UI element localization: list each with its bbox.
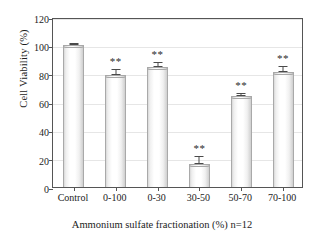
error-bar-cap-top	[279, 66, 288, 67]
bar-group: **	[137, 19, 179, 187]
x-tick-mark	[116, 187, 117, 191]
x-axis-title: Ammonium sulfate fractionation (%) n=12	[0, 219, 324, 230]
bar[interactable]	[189, 164, 210, 187]
bar[interactable]	[147, 67, 168, 187]
significance-marker: **	[235, 80, 247, 91]
x-tick-label: 70-100	[268, 192, 296, 203]
y-tick-label: 0	[44, 184, 49, 195]
x-tick-label: 30-50	[187, 192, 210, 203]
chart-figure: Cell Viability (%) 020406080100120******…	[0, 0, 324, 241]
y-tick-label: 80	[39, 70, 49, 81]
error-bar-cap-top	[237, 93, 246, 94]
y-tick-label: 40	[39, 127, 49, 138]
significance-marker: **	[110, 56, 122, 67]
x-tick-mark	[283, 187, 284, 191]
significance-marker: **	[193, 143, 205, 154]
y-axis-title: Cell Viability (%)	[18, 0, 29, 139]
error-bar-cap-top	[111, 69, 120, 70]
error-bar-cap-top	[195, 156, 204, 157]
significance-marker: **	[277, 53, 289, 64]
x-tick-label: Control	[58, 192, 89, 203]
bar-group: **	[220, 19, 262, 187]
bar-group	[53, 19, 95, 187]
bar-group: **	[179, 19, 221, 187]
x-tick-mark	[158, 187, 159, 191]
bar-group: **	[95, 19, 137, 187]
plot-area: 020406080100120**********	[52, 18, 303, 188]
x-tick-label: 0-30	[147, 192, 165, 203]
bar[interactable]	[231, 96, 252, 187]
bar[interactable]	[105, 75, 126, 187]
y-tick-label: 100	[34, 42, 49, 53]
y-tick-label: 20	[39, 155, 49, 166]
x-tick-label: 50-70	[229, 192, 252, 203]
x-tick-mark	[199, 187, 200, 191]
x-tick-mark	[74, 187, 75, 191]
y-tick-mark	[49, 189, 53, 190]
x-tick-mark	[241, 187, 242, 191]
bar-group: **	[262, 19, 304, 187]
bar[interactable]	[273, 72, 294, 187]
y-tick-label: 60	[39, 99, 49, 110]
bar[interactable]	[63, 45, 84, 187]
error-bar-cap-top	[153, 62, 162, 63]
y-tick-label: 120	[34, 14, 49, 25]
x-tick-label: 0-100	[103, 192, 126, 203]
significance-marker: **	[152, 49, 164, 60]
